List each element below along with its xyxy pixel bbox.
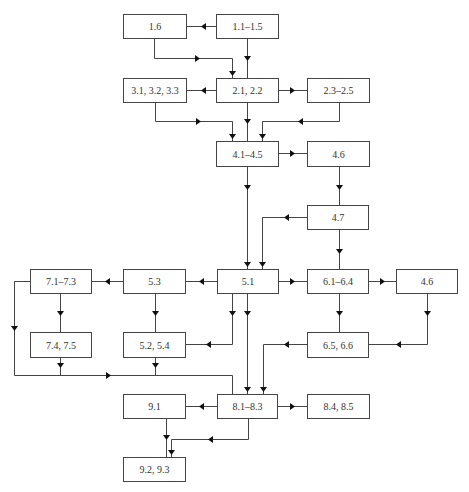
node-n7_4: 7.4, 7.5 xyxy=(31,333,92,358)
node-label: 4.1–4.5 xyxy=(233,149,263,160)
connector-line xyxy=(263,218,308,270)
arrowhead-icon xyxy=(229,134,236,139)
arrowhead-icon xyxy=(380,278,385,285)
node-n9_2: 9.2, 9.3 xyxy=(124,458,186,482)
node-label: 4.6 xyxy=(421,276,434,287)
node-n5_1: 5.1 xyxy=(218,270,279,294)
edge-n8_1-to-n9_2 xyxy=(168,419,249,458)
arrowhead-icon xyxy=(244,119,251,124)
edge-n7_1-to-n7_4 xyxy=(57,294,64,333)
arrowhead-icon xyxy=(195,55,200,62)
node-n3_1: 3.1, 3.2, 3.3 xyxy=(124,79,187,103)
node-label: 5.1 xyxy=(242,276,255,287)
edge-n8_1-to-n8_4 xyxy=(278,403,308,410)
node-n4_1: 4.1–4.5 xyxy=(217,142,279,167)
arrowhead-icon xyxy=(229,311,236,316)
arrowhead-icon xyxy=(152,311,159,316)
arrowhead-icon xyxy=(298,118,303,125)
node-n4_7: 4.7 xyxy=(308,206,369,230)
arrowhead-icon xyxy=(206,341,211,348)
edge-n6_1-to-n4_6b xyxy=(369,278,397,285)
connector-line xyxy=(264,345,308,395)
arrowhead-icon xyxy=(284,214,289,221)
arrowhead-icon xyxy=(260,387,267,392)
connector-line xyxy=(156,103,233,142)
arrowhead-icon xyxy=(199,278,204,285)
arrowhead-icon xyxy=(201,23,206,30)
arrowhead-icon xyxy=(259,134,266,139)
node-n1_6: 1.6 xyxy=(124,15,187,39)
connector-line xyxy=(155,39,233,79)
arrowhead-icon xyxy=(290,87,295,94)
node-label: 1.6 xyxy=(149,21,162,32)
node-n5_2: 5.2, 5.4 xyxy=(124,333,186,358)
arrowhead-icon xyxy=(152,363,159,368)
arrowhead-icon xyxy=(105,278,110,285)
edge-n6_1-to-n6_5 xyxy=(336,294,343,333)
node-n5_3: 5.3 xyxy=(124,270,186,294)
connector-line xyxy=(186,294,233,345)
edge-n1_1-to-n2_1 xyxy=(244,39,251,79)
arrowhead-icon xyxy=(208,436,213,443)
connector-line xyxy=(172,419,249,458)
node-label: 8.1–8.3 xyxy=(233,401,263,412)
node-n9_1: 9.1 xyxy=(124,395,186,419)
edge-n4_6b-to-n6_5 xyxy=(369,294,432,349)
arrowhead-icon xyxy=(244,56,251,61)
node-label: 7.1–7.3 xyxy=(46,276,76,287)
arrowhead-icon xyxy=(284,341,289,348)
node-n4_6b: 4.6 xyxy=(397,270,458,294)
arrowhead-icon xyxy=(57,363,64,368)
arrowhead-icon xyxy=(336,249,343,254)
arrowhead-icon xyxy=(259,262,266,267)
edge-n4_1-to-n4_6a xyxy=(279,150,308,157)
edge-n5_1-to-n8_1 xyxy=(244,294,251,395)
node-n8_4: 8.4, 8.5 xyxy=(308,395,370,419)
edge-n4_7-to-n6_1 xyxy=(336,230,343,270)
edge-n6_5-to-n8_1 xyxy=(260,341,308,395)
edge-n5_3-to-n5_2 xyxy=(152,294,159,333)
arrowhead-icon xyxy=(244,262,251,267)
edge-n5_3-to-n7_1 xyxy=(92,278,124,285)
edge-n2_1-to-n2_3 xyxy=(279,87,308,94)
edge-n5_1-to-n5_3 xyxy=(186,278,218,285)
arrowhead-icon xyxy=(106,372,111,379)
node-label: 9.1 xyxy=(148,401,161,412)
node-n4_6a: 4.6 xyxy=(308,142,370,167)
arrowhead-icon xyxy=(244,387,251,392)
node-label: 7.4, 7.5 xyxy=(46,340,76,351)
node-label: 5.3 xyxy=(148,276,161,287)
node-label: 6.1–6.4 xyxy=(323,276,353,287)
node-n8_1: 8.1–8.3 xyxy=(218,395,278,419)
edge-n1_6-to-n2_1 xyxy=(155,39,237,79)
edge-n1_1-to-n1_6 xyxy=(187,23,217,30)
arrowhead-icon xyxy=(163,435,170,440)
arrowhead-icon xyxy=(424,311,431,316)
edge-n8_1-to-n9_1 xyxy=(186,403,218,410)
node-n2_1: 2.1, 2.2 xyxy=(217,79,279,103)
connector-line xyxy=(369,294,428,345)
arrowhead-icon xyxy=(336,311,343,316)
edge-n2_1-to-n3_1 xyxy=(187,87,217,94)
node-label: 4.7 xyxy=(332,212,345,223)
arrowhead-icon xyxy=(168,450,175,455)
edge-n4_6a-to-n4_7 xyxy=(336,167,343,206)
node-n7_1: 7.1–7.3 xyxy=(31,270,92,294)
flowchart-diagram: 1.61.1–1.53.1, 3.2, 3.32.1, 2.22.3–2.54.… xyxy=(0,0,469,492)
arrowhead-icon xyxy=(336,185,343,190)
node-label: 3.1, 3.2, 3.3 xyxy=(131,85,179,96)
edge-n5_1-to-n6_1 xyxy=(279,278,308,285)
node-n6_1: 6.1–6.4 xyxy=(308,270,369,294)
arrowhead-icon xyxy=(57,311,64,316)
node-n2_3: 2.3–2.5 xyxy=(308,79,370,103)
arrowhead-icon xyxy=(196,118,201,125)
arrowhead-icon xyxy=(11,326,18,331)
node-label: 8.4, 8.5 xyxy=(324,401,354,412)
node-n6_5: 6.5, 6.6 xyxy=(308,333,369,358)
node-label: 9.2, 9.3 xyxy=(140,464,170,475)
node-label: 4.6 xyxy=(332,149,345,160)
edge-n9_1-to-n9_2 xyxy=(163,419,170,458)
node-n1_1: 1.1–1.5 xyxy=(217,15,279,39)
nodes-layer: 1.61.1–1.53.1, 3.2, 3.32.1, 2.22.3–2.54.… xyxy=(31,15,458,482)
node-label: 6.5, 6.6 xyxy=(323,340,353,351)
